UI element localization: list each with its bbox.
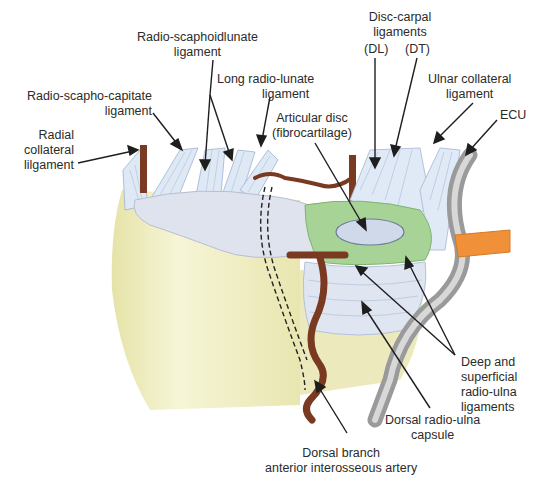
articular-disc-shape — [336, 219, 404, 245]
label-dorsal-radio-ulna-capsule: Dorsal radio-ulna capsule — [385, 413, 480, 443]
label-disc-carpal-dl: (DL) — [364, 42, 388, 57]
label-ecu: ECU — [500, 108, 526, 123]
label-radio-scapho-capitate-ligament: Radio-scapho-capitate ligament — [18, 89, 152, 119]
label-radio-scaphoidlunate-ligament: Radio-scaphoidlunate ligament — [137, 30, 258, 60]
label-disc-carpal-dt: (DT) — [405, 42, 430, 57]
wrist-anatomy-diagram: Radio-scaphoidlunate ligament Long radio… — [0, 0, 541, 486]
label-disc-carpal-ligaments: Disc-carpal ligaments — [365, 10, 435, 40]
label-dorsal-branch-artery: Dorsal branch anterior interosseous arte… — [265, 446, 417, 476]
label-long-radio-lunate-ligament: Long radio-lunate ligament — [217, 72, 314, 102]
label-radial-collateral-ligament: Radial collateral lilgament — [18, 128, 74, 173]
label-articular-disc: Articular disc (fibrocartilage) — [272, 111, 352, 141]
label-ulnar-collateral-ligament: Ulnar collateral ligament — [428, 72, 511, 102]
label-deep-superficial-radio-ulna-ligaments: Deep and superficial radio-ulna ligament… — [461, 355, 517, 415]
extensor-retinaculum — [455, 230, 510, 257]
